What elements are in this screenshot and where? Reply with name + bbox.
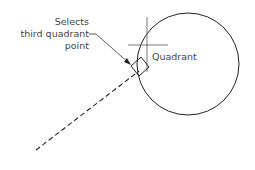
callout-line-2: third quadrant xyxy=(20,28,89,39)
quadrant-snap-marker-icon xyxy=(131,57,149,76)
leader-arrowhead-icon xyxy=(124,58,131,65)
quadrant-label: Quadrant xyxy=(152,51,197,62)
callout-line-1: Selects xyxy=(55,16,89,27)
dashed-line xyxy=(36,71,139,150)
circle xyxy=(137,13,239,115)
cad-diagram: Selects third quadrant point Quadrant xyxy=(0,0,255,170)
callout-line-3: point xyxy=(65,40,90,51)
leader-line-diagonal xyxy=(96,34,130,64)
diagram-svg: Selects third quadrant point Quadrant xyxy=(0,0,255,170)
